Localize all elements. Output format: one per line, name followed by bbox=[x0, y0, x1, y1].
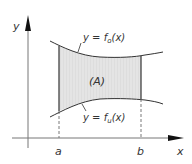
lower-curve-label: y = fu(x) bbox=[82, 112, 125, 125]
y-axis-arrow-icon bbox=[25, 15, 31, 31]
bound-b-label: b bbox=[137, 145, 144, 158]
region-label: (A) bbox=[89, 75, 105, 88]
x-axis-arrow-icon bbox=[168, 135, 184, 141]
upper-curve-label: y = fo(x) bbox=[82, 32, 125, 45]
y-axis-label: y bbox=[12, 20, 20, 33]
area-between-curves-diagram: y x a b (A) y = fo(x) y = fu(x) bbox=[0, 0, 192, 164]
lower-label-leader bbox=[82, 104, 86, 111]
diagram-svg: y x a b (A) y = fo(x) y = fu(x) bbox=[0, 0, 192, 164]
bound-a-label: a bbox=[55, 145, 62, 158]
upper-label-leader bbox=[78, 43, 81, 52]
x-axis-label: x bbox=[176, 145, 184, 158]
